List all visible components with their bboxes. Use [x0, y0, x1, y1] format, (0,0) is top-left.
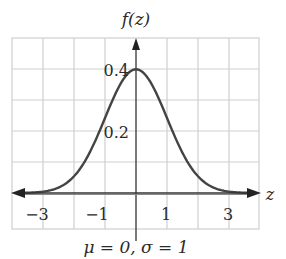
x-tick-label: −1: [85, 205, 109, 224]
arrow-up-icon: [132, 38, 140, 50]
x-tick-label: −3: [25, 205, 49, 224]
x-axis-label: z: [265, 185, 275, 204]
y-axis-label: f(z): [120, 9, 151, 29]
y-tick-label: 0.4: [104, 61, 129, 80]
x-tick-label: 1: [161, 205, 171, 224]
chart-caption: μ = 0, σ = 1: [83, 237, 188, 257]
normal-distribution-chart: f(z) z 0.4 0.2 −3 −1 1 3 μ = 0, σ = 1: [0, 0, 286, 259]
y-tick-label: 0.2: [104, 123, 129, 142]
arrow-left-icon: [11, 188, 25, 198]
x-tick-label: 3: [223, 205, 233, 224]
